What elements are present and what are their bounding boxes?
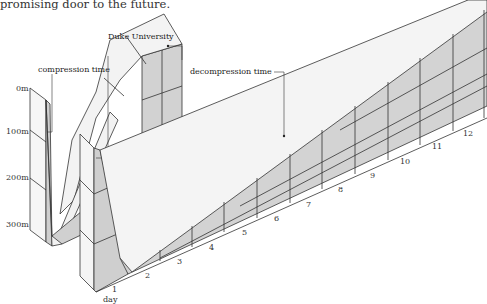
depth-label-0m: 0m [16,85,29,93]
day-axis-label: day [103,296,117,304]
day-tick-3: 3 [177,258,182,266]
day-tick-8: 8 [338,186,343,194]
caption-text: promising door to the future. [0,0,170,11]
label-compression-time: compression time [38,66,110,74]
front-pillar-front [80,134,94,290]
label-decompression-time: decompression time [190,68,272,76]
left-pillar-front [30,88,46,242]
day-tick-1: 1 [112,286,117,294]
day-tick-11: 11 [432,143,442,151]
day-tick-10: 10 [400,158,410,166]
day-tick-12: 12 [463,130,473,138]
day-tick-5: 5 [242,229,247,237]
day-tick-6: 6 [274,215,279,223]
depth-label-100m: 100m [6,128,29,136]
day-tick-9: 9 [370,172,375,180]
day-tick-7: 7 [306,201,311,209]
day-tick-2: 2 [145,272,150,280]
label-duke-university: Duke University [108,33,174,41]
depth-label-200m: 200m [6,174,29,182]
day-tick-4: 4 [209,244,214,252]
depth-label-300m: 300m [6,221,29,229]
